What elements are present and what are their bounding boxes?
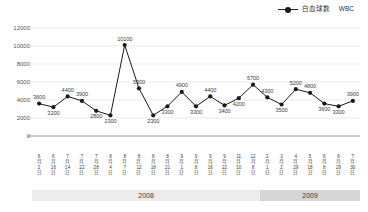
data-point-marker[interactable] (137, 86, 141, 90)
x-tick-label: 4月29日 (290, 154, 302, 176)
data-point-marker[interactable] (208, 94, 212, 98)
data-point-marker[interactable] (165, 104, 169, 108)
x-tick-label: 7月30日 (347, 154, 359, 176)
data-value-label: 4300 (261, 88, 273, 94)
data-value-label: 2300 (104, 118, 116, 124)
data-point-marker[interactable] (123, 43, 127, 47)
data-value-label: 3300 (161, 109, 173, 115)
data-point-marker[interactable] (151, 113, 155, 117)
data-point-marker[interactable] (66, 94, 70, 98)
data-value-label: 4900 (176, 82, 188, 88)
x-tick-label: 6月2日 (33, 154, 45, 176)
x-tick-label: 2月1日 (261, 154, 273, 176)
data-value-label: 10100 (117, 36, 132, 42)
x-tick-label: 12月8日 (247, 154, 259, 176)
line-dot-marker-icon (278, 6, 298, 13)
x-tick-label: 8月18日 (147, 154, 159, 176)
data-point-marker[interactable] (51, 105, 55, 109)
data-value-label: 3900 (76, 91, 88, 97)
year-band-row: 20082009 (0, 190, 368, 204)
series-markers-wbc (37, 43, 355, 117)
data-value-label: 3900 (347, 91, 359, 97)
data-point-marker[interactable] (308, 91, 312, 95)
data-point-marker[interactable] (279, 102, 283, 106)
data-value-label: 5300 (133, 79, 145, 85)
year-band-2009: 2009 (260, 190, 360, 201)
data-value-label: 4800 (304, 83, 316, 89)
data-point-marker[interactable] (351, 99, 355, 103)
x-tick-label: 8月21日 (161, 154, 173, 176)
wbc-line-chart: 白血球数 WBC 020004000600080001000012000 360… (0, 0, 368, 212)
x-tick-label: 7月28日 (90, 154, 102, 176)
data-value-label: 4400 (204, 87, 216, 93)
data-point-marker[interactable] (322, 102, 326, 106)
data-value-label: 3600 (33, 94, 45, 100)
plot-area: 3600320044003900280023001010053002300330… (0, 18, 368, 152)
data-value-label: 3500 (276, 107, 288, 113)
x-tick-label: 8月4日 (104, 154, 116, 176)
data-value-label: 4200 (233, 101, 245, 107)
year-band-label: 2008 (138, 192, 154, 199)
x-tick-label: 5月18日 (304, 154, 316, 176)
data-point-marker[interactable] (37, 102, 41, 106)
x-tick-label: 7月14日 (62, 154, 74, 176)
data-point-marker[interactable] (194, 104, 198, 108)
data-point-marker[interactable] (180, 90, 184, 94)
x-tick-label: 6月29日 (333, 154, 345, 176)
x-tick-label: 9月16日 (204, 154, 216, 176)
x-tick-label: 8月12日 (133, 154, 145, 176)
x-tick-label: 9月22日 (219, 154, 231, 176)
x-axis-date-labels: 6月2日6月16日7月14日7月22日7月28日8月4日8月7日8月12日8月1… (0, 152, 368, 190)
x-tick-label: 9月8日 (190, 154, 202, 176)
data-value-label: 2800 (90, 113, 102, 119)
data-value-label: 3300 (333, 109, 345, 115)
legend-label-japanese: 白血球数 (302, 6, 330, 13)
gridlines (28, 28, 360, 136)
year-band-label: 2009 (302, 192, 318, 199)
data-value-label: 3400 (218, 108, 230, 114)
data-value-label: 3600 (318, 106, 330, 112)
chart-legend[interactable]: 白血球数 WBC (278, 6, 354, 13)
x-tick-label: 8月7日 (119, 154, 131, 176)
x-tick-label: 7月22日 (76, 154, 88, 176)
data-value-label: 3200 (47, 110, 59, 116)
data-value-label: 5700 (247, 75, 259, 81)
data-point-marker[interactable] (294, 87, 298, 91)
data-point-marker[interactable] (237, 96, 241, 100)
x-tick-label: 9月1日 (176, 154, 188, 176)
data-point-marker[interactable] (337, 104, 341, 108)
data-point-marker[interactable] (265, 95, 269, 99)
data-value-label: 4400 (62, 87, 74, 93)
x-tick-label: 6月8日 (318, 154, 330, 176)
x-tick-label: 11月10日 (233, 154, 245, 176)
x-tick-label: 3月2日 (276, 154, 288, 176)
data-value-label: 5200 (290, 80, 302, 86)
year-band-2008: 2008 (32, 190, 260, 201)
data-point-marker[interactable] (94, 109, 98, 113)
data-value-label: 2300 (147, 118, 159, 124)
data-point-marker[interactable] (222, 103, 226, 107)
data-point-marker[interactable] (80, 99, 84, 103)
legend-label-english: WBC (339, 6, 354, 13)
data-point-marker[interactable] (108, 113, 112, 117)
data-point-marker[interactable] (251, 83, 255, 87)
data-value-label: 3300 (190, 109, 202, 115)
x-tick-label: 6月16日 (47, 154, 59, 176)
